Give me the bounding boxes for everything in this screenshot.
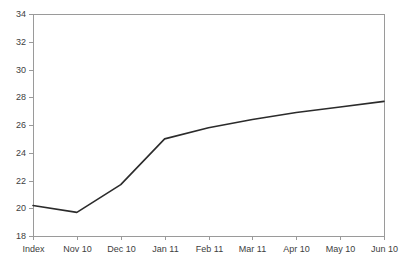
- plot-frame: [34, 15, 385, 237]
- y-axis-tick-label: 26: [16, 120, 26, 130]
- chart-plot-area: [0, 0, 408, 265]
- y-axis-tick-label: 32: [16, 37, 26, 47]
- x-axis-tick-label: Jun 10: [355, 244, 408, 254]
- y-axis-tick-label: 34: [16, 9, 26, 19]
- y-axis-tick-label: 18: [16, 231, 26, 241]
- y-axis-tick-label: 22: [16, 176, 26, 186]
- y-axis-tick-label: 24: [16, 148, 26, 158]
- y-axis-tick-label: 20: [16, 203, 26, 213]
- y-axis-tick-label: 28: [16, 92, 26, 102]
- y-axis-tick-label: 30: [16, 65, 26, 75]
- line-chart: 182022242628303234IndexNov 10Dec 10Jan 1…: [0, 0, 408, 265]
